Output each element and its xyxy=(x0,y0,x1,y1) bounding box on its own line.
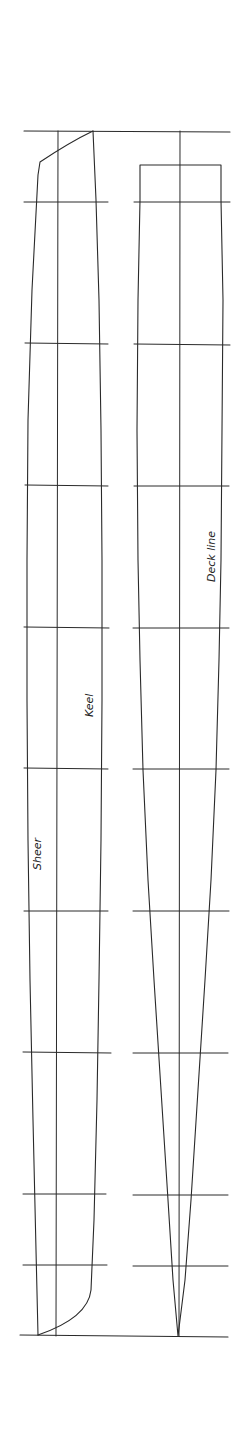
sheer-label: Sheer xyxy=(31,837,44,870)
station-line xyxy=(25,485,108,486)
profile-centerline xyxy=(56,131,58,1336)
plan-view: Deck line xyxy=(133,131,230,1336)
station-line xyxy=(25,343,108,344)
plan-station-lines xyxy=(133,202,230,1266)
profile-station-lines xyxy=(23,202,111,1265)
hull-lines-drawing: Sheer Keel Deck line xyxy=(0,0,246,1438)
profile-view: Sheer Keel xyxy=(23,131,111,1336)
top-reference-line xyxy=(24,131,230,132)
station-line xyxy=(24,627,109,628)
deck-line-label: Deck line xyxy=(205,531,218,582)
station-line xyxy=(24,768,108,769)
sheer-line xyxy=(27,131,93,1335)
plan-centerline xyxy=(179,131,180,1336)
baseline xyxy=(20,1335,228,1337)
keel-label: Keel xyxy=(83,694,96,717)
station-line xyxy=(134,344,230,345)
keel-line xyxy=(38,131,102,1335)
